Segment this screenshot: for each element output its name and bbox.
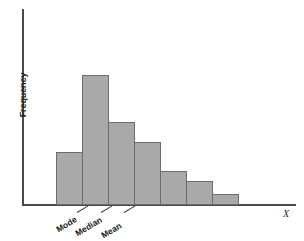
- histogram-bar: [160, 171, 187, 205]
- histogram-bar: [82, 75, 109, 205]
- histogram-bar: [56, 152, 83, 205]
- histogram-chart: Frequency X Mode Median Mean: [0, 0, 304, 241]
- histogram-bar: [186, 181, 213, 205]
- bar-series: [0, 0, 304, 241]
- histogram-bar: [108, 122, 135, 205]
- histogram-bar: [212, 194, 239, 205]
- histogram-bar: [134, 142, 161, 205]
